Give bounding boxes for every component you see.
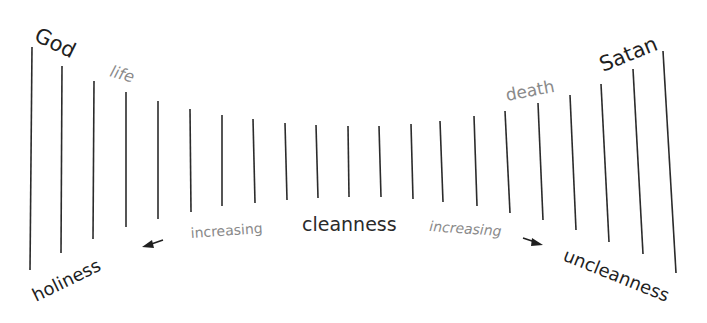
vertical-line-12 bbox=[379, 126, 381, 197]
vertical-line-14 bbox=[440, 121, 443, 202]
arrow-right-icon bbox=[523, 238, 543, 246]
vertical-line-21 bbox=[663, 51, 676, 273]
vertical-line-9 bbox=[285, 123, 287, 200]
vertical-line-18 bbox=[570, 95, 576, 230]
label-increasing-right: increasing bbox=[429, 218, 502, 239]
label-holiness: holiness bbox=[29, 254, 104, 305]
vertical-line-16 bbox=[505, 111, 510, 213]
vertical-line-13 bbox=[411, 124, 413, 199]
label-cleanness: cleanness bbox=[302, 213, 397, 235]
vertical-line-20 bbox=[633, 69, 643, 254]
vertical-line-17 bbox=[538, 103, 543, 220]
vertical-line-11 bbox=[348, 126, 349, 197]
label-increasing-left: increasing bbox=[190, 220, 263, 241]
vertical-line-3 bbox=[93, 81, 94, 239]
vertical-line-2 bbox=[61, 66, 62, 253]
arrow-left-icon bbox=[142, 240, 163, 248]
label-death: death bbox=[504, 76, 556, 105]
vertical-line-19 bbox=[601, 84, 609, 242]
label-god: God bbox=[31, 23, 80, 63]
vertical-line-15 bbox=[474, 116, 477, 206]
vertical-line-1 bbox=[30, 47, 32, 270]
label-uncleanness: uncleanness bbox=[561, 244, 673, 306]
vertical-line-6 bbox=[190, 109, 191, 212]
label-life: life bbox=[108, 62, 137, 87]
vertical-line-8 bbox=[253, 119, 255, 203]
label-satan: Satan bbox=[596, 32, 661, 77]
vertical-line-10 bbox=[316, 125, 318, 198]
holiness-uncleanness-diagram: God life holiness increasing cleanness i… bbox=[0, 0, 707, 323]
